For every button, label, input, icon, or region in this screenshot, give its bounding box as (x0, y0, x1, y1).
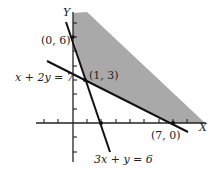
feasible-region-diagram: Y X (0, 6) (1, 3) (7, 0) x + 2y = 7 3x +… (0, 0, 219, 178)
vertex-0-6 (71, 35, 75, 39)
point-label-7-0: (7, 0) (151, 129, 181, 142)
line-label-3x-plus-y: 3x + y = 6 (94, 153, 153, 166)
point-label-1-3: (1, 3) (89, 69, 119, 82)
point-label-0-6: (0, 6) (41, 34, 71, 47)
x-axis-label: X (198, 121, 208, 134)
vertex-1-3 (83, 78, 87, 82)
point-2-0 (99, 121, 103, 125)
y-axis-label: Y (63, 6, 72, 19)
line-label-x-plus-2y: x + 2y = 7 (15, 71, 74, 84)
vertex-7-0 (171, 121, 175, 125)
